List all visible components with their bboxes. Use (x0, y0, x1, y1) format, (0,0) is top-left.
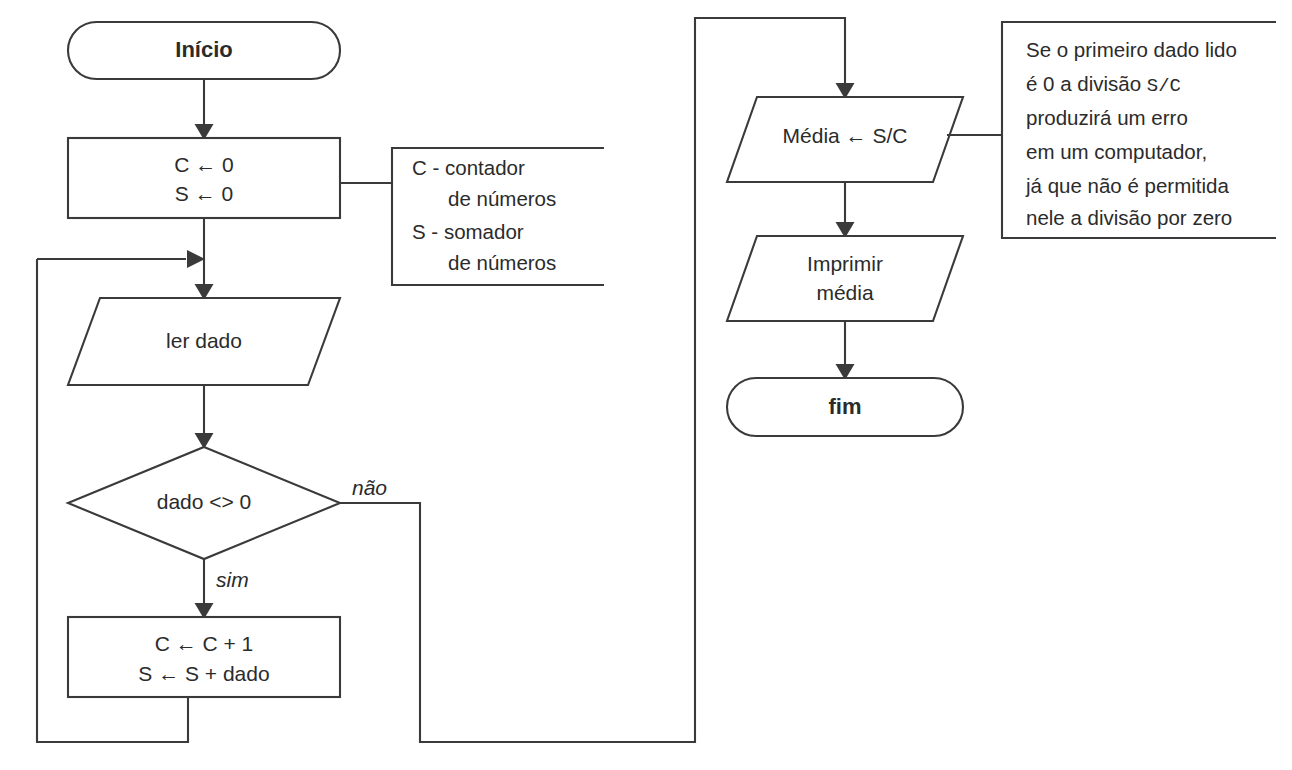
init-label-line1: C ← 0 (174, 153, 234, 176)
print-label-line1: Imprimir (807, 252, 883, 275)
connector-read-to-decision (195, 385, 214, 449)
legend-line-3: S - somador (412, 220, 524, 243)
branch-label-yes: sim (216, 568, 249, 591)
node-start[interactable]: Início (68, 22, 340, 79)
legend-line-4: de números (448, 251, 556, 274)
note-line-2-text: é 0 a divisão (1026, 72, 1147, 95)
node-read[interactable]: ler dado (68, 298, 340, 385)
end-label: fim (829, 394, 862, 419)
read-label: ler dado (166, 329, 242, 352)
legend-line-2: de números (448, 187, 556, 210)
note-line-1-text: Se o primeiro dado lido (1026, 38, 1237, 61)
init-label-line2: S ← 0 (175, 182, 233, 205)
node-end[interactable]: fim (727, 378, 963, 436)
flowchart-svg: Início C ← 0 S ← 0 C - contador de númer… (0, 0, 1292, 770)
note-line-3: produzirá um erro (1026, 106, 1188, 129)
average-label: Média ← S/C (783, 124, 908, 147)
node-init[interactable]: C ← 0 S ← 0 (68, 138, 340, 218)
node-decision[interactable]: dado <> 0 (68, 447, 340, 559)
legend-line-1: C - contador (412, 156, 525, 179)
note-line-1: Se o primeiro dado lido (1026, 38, 1237, 61)
node-accumulate[interactable]: C ← C + 1 S ← S + dado (68, 617, 340, 697)
decision-label: dado <> 0 (157, 490, 252, 513)
node-average[interactable]: Média ← S/C (727, 97, 963, 182)
init-process-shape (68, 138, 340, 218)
connector-average-to-print (836, 182, 855, 238)
note-line-5: já que não é permitida (1025, 174, 1229, 197)
branch-label-no: não (352, 476, 387, 499)
connector-start-to-init (195, 79, 214, 140)
connector-loop-return-head (37, 250, 205, 268)
annotation-legend: C - contador de números S - somador de n… (392, 148, 604, 285)
arrow-right-icon (187, 250, 205, 268)
note-line-2-mono: S/C (1147, 75, 1181, 97)
flowchart-canvas: Início C ← 0 S ← 0 C - contador de númer… (0, 0, 1292, 770)
note-line-2: é 0 a divisão S/C (1026, 72, 1181, 97)
connector-decision-to-accumulate (195, 559, 214, 619)
note-line-4: em um computador, (1026, 140, 1207, 163)
connector-print-to-end (836, 321, 855, 380)
node-print[interactable]: Imprimir média (727, 236, 963, 321)
print-output-shape (727, 236, 963, 321)
start-label: Início (175, 37, 232, 62)
accumulate-process-shape (68, 617, 340, 697)
accumulate-label-line1: C ← C + 1 (155, 632, 254, 655)
accumulate-label-line2: S ← S + dado (138, 662, 269, 685)
print-label-line2: média (816, 281, 874, 304)
annotation-note: Se o primeiro dado lido é 0 a divisão S/… (1002, 22, 1276, 238)
note-line-6: nele a divisão por zero (1026, 206, 1232, 229)
